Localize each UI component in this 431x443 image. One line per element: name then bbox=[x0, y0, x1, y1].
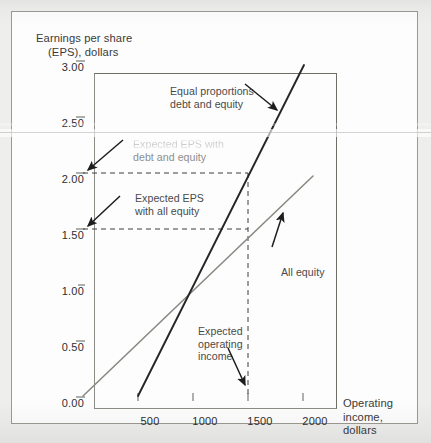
series-line-equal-proportions-debt-and-equity bbox=[138, 65, 304, 396]
scanned-page: Earnings per share(EPS), dollars Operati… bbox=[0, 0, 431, 443]
leader-arrow-expected-eps-all-equity bbox=[88, 196, 120, 226]
leader-arrow-expected-eps-debt-and-equity bbox=[88, 140, 123, 170]
x-axis-ticks bbox=[138, 393, 303, 401]
annotation-leader-arrows bbox=[88, 84, 283, 385]
leader-arrow-expected-operating-income bbox=[228, 348, 245, 385]
series-line-all-equity bbox=[83, 176, 313, 396]
reference-lines bbox=[83, 173, 248, 396]
chart-vector-layer bbox=[0, 0, 431, 443]
leader-arrow-equal-proportions bbox=[245, 84, 277, 110]
leader-arrow-all-equity bbox=[272, 213, 283, 247]
